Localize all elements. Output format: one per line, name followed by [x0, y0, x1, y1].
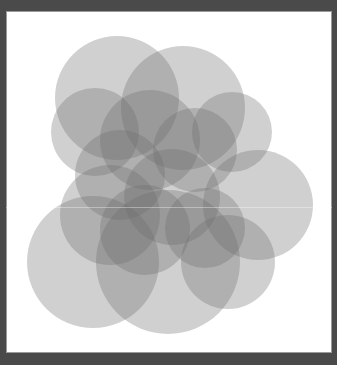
canvas: [6, 11, 332, 353]
scan-artifact-line: [6, 207, 332, 208]
translucent-circle: [165, 188, 245, 268]
overlapping-circles-artwork: [6, 11, 332, 353]
picture-frame: [0, 0, 337, 365]
